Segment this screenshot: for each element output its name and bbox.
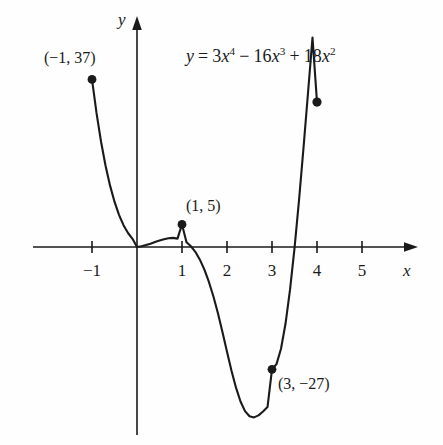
equation-term1-exponent: 4: [230, 45, 236, 57]
equation-term1-variable: x: [221, 46, 229, 66]
equation-lhs: y: [186, 46, 194, 66]
x-tick-label-neg1: −1: [78, 262, 106, 279]
marked-point-local-min: [268, 365, 277, 374]
x-tick-label-3: 3: [260, 262, 284, 279]
equation-term3-variable: x: [322, 46, 330, 66]
equation-term2-exponent: 3: [280, 45, 286, 57]
point-label-local-min: (3, −27): [278, 376, 330, 392]
x-tick-label-2: 2: [215, 262, 239, 279]
x-tick-label-5: 5: [350, 262, 374, 279]
x-axis-label: x: [403, 262, 411, 279]
marked-point-left-endpoint: [88, 75, 97, 84]
x-tick-label-1: 1: [170, 262, 194, 279]
x-tick-label-4: 4: [305, 262, 329, 279]
plot-canvas: [0, 0, 443, 445]
equation-operator1: −: [239, 46, 249, 66]
y-axis: [132, 16, 142, 435]
equation-term2-variable: x: [272, 46, 280, 66]
equation-equals: =: [198, 46, 208, 66]
y-axis-label: y: [118, 11, 126, 28]
equation-term3-exponent: 2: [330, 45, 336, 57]
marked-point-right-endpoint: [312, 98, 321, 107]
x-axis: [33, 242, 418, 252]
function-graph-figure: y=3x4−16x3+18x2 (−1, 37) (1, 5) (3, −27)…: [0, 0, 443, 445]
point-label-local-max: (1, 5): [186, 198, 221, 214]
equation-annotation: y=3x4−16x3+18x2: [186, 46, 336, 65]
point-label-left-endpoint: (−1, 37): [44, 50, 96, 66]
equation-operator2: +: [290, 46, 300, 66]
function-curve: [92, 38, 317, 418]
equation-term2-coefficient: 16: [254, 46, 272, 66]
marked-point-local-max: [178, 220, 187, 229]
equation-term3-coefficient: 18: [304, 46, 322, 66]
